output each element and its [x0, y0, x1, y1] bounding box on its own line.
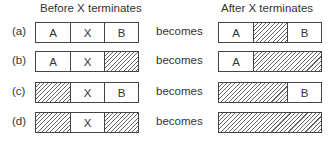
- memory-after: [218, 112, 322, 133]
- free-hole-segment: [36, 113, 70, 132]
- memory-before: AXB: [35, 22, 139, 43]
- diagram-row: (a)AXBbecomesAB: [0, 22, 332, 43]
- process-segment: A: [36, 23, 70, 42]
- becomes-label: becomes: [156, 115, 203, 127]
- process-segment: A: [219, 23, 253, 42]
- free-hole-segment: [104, 113, 138, 132]
- row-label: (b): [12, 54, 26, 66]
- free-hole-segment: [104, 52, 138, 71]
- row-label: (d): [12, 115, 26, 127]
- process-segment: X: [70, 23, 104, 42]
- becomes-label: becomes: [156, 85, 203, 97]
- memory-after: B: [218, 82, 322, 103]
- row-label: (c): [12, 85, 25, 97]
- free-hole-segment: [253, 52, 321, 71]
- header-after: After X terminates: [221, 2, 313, 14]
- diagram-row: (c)XBbecomesB: [0, 82, 332, 103]
- process-segment: B: [287, 83, 321, 102]
- becomes-label: becomes: [156, 54, 203, 66]
- process-segment: B: [104, 23, 138, 42]
- process-segment: B: [104, 83, 138, 102]
- free-hole-segment: [219, 113, 321, 132]
- diagram-row: (d)Xbecomes: [0, 112, 332, 133]
- process-segment: X: [70, 52, 104, 71]
- header-before: Before X terminates: [40, 2, 142, 14]
- process-segment: A: [219, 52, 253, 71]
- free-hole-segment: [219, 83, 287, 102]
- free-hole-segment: [253, 23, 287, 42]
- process-segment: B: [287, 23, 321, 42]
- memory-after: AB: [218, 22, 322, 43]
- process-segment: X: [70, 113, 104, 132]
- diagram-row: (b)AXbecomesA: [0, 51, 332, 72]
- row-label: (a): [12, 25, 26, 37]
- memory-before: X: [35, 112, 139, 133]
- becomes-label: becomes: [156, 25, 203, 37]
- memory-before: AX: [35, 51, 139, 72]
- memory-before: XB: [35, 82, 139, 103]
- memory-after: A: [218, 51, 322, 72]
- process-segment: X: [70, 83, 104, 102]
- process-segment: A: [36, 52, 70, 71]
- free-hole-segment: [36, 83, 70, 102]
